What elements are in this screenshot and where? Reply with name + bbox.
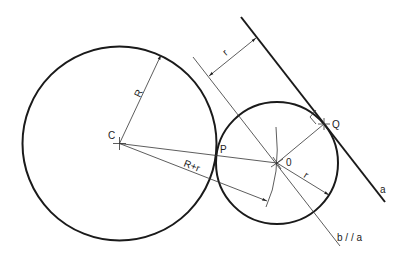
radius-O-Q bbox=[277, 124, 324, 163]
line-b bbox=[193, 57, 340, 246]
label-r-radius: r bbox=[302, 169, 311, 180]
offset-dimension-r bbox=[209, 38, 256, 76]
label-a: a bbox=[380, 184, 386, 195]
geometry-diagram: C 0 P Q R r r R+r a b / / a bbox=[0, 0, 405, 259]
label-r-offset: r bbox=[220, 47, 230, 58]
radius-R-dimension bbox=[120, 55, 162, 144]
sum-radii-dimension bbox=[120, 144, 268, 202]
label-O: 0 bbox=[286, 157, 292, 168]
label-b-parallel-a: b / / a bbox=[337, 232, 362, 243]
center-line-C-O bbox=[120, 144, 278, 164]
label-R-plus-r: R+r bbox=[182, 158, 202, 174]
label-C: C bbox=[108, 130, 115, 141]
line-a bbox=[241, 17, 385, 202]
label-P: P bbox=[220, 144, 227, 155]
label-Q: Q bbox=[332, 119, 340, 130]
label-R: R bbox=[132, 88, 145, 99]
